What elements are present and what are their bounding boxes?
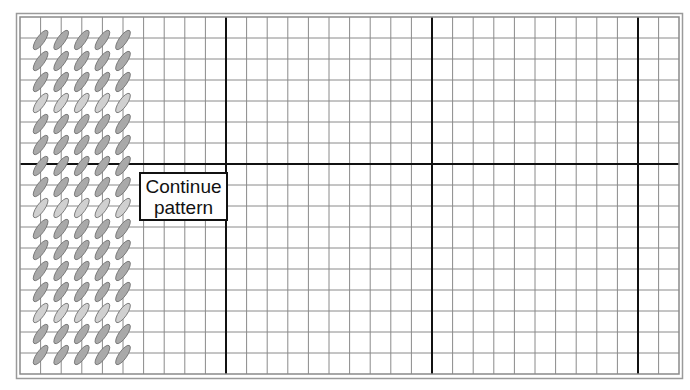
label-line-2: pattern bbox=[154, 197, 213, 218]
stitch-grid-chart bbox=[0, 0, 690, 390]
label-line-1: Continue bbox=[145, 176, 221, 197]
continue-pattern-label: Continue pattern bbox=[139, 172, 228, 221]
